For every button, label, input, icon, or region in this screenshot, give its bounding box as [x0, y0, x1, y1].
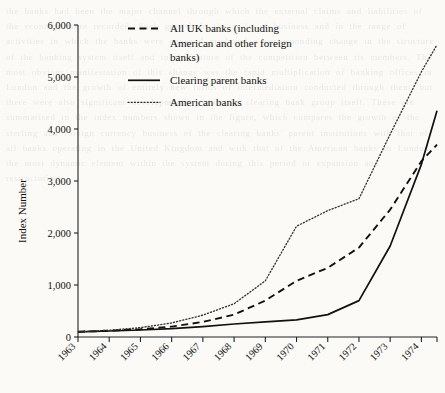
y-tick-label: 2,000 — [47, 228, 71, 239]
x-tick-label: 1966 — [149, 341, 171, 363]
x-tick-label: 1967 — [180, 341, 202, 363]
legend-label: Clearing parent banks — [170, 74, 267, 86]
x-tick-label: 1970 — [274, 341, 296, 363]
x-tick-label: 1969 — [243, 341, 265, 363]
series-line-dashed — [78, 145, 437, 332]
series-line-dotted — [78, 45, 437, 332]
x-tick-label: 1965 — [118, 341, 140, 363]
plot-area: 01,0002,0003,0004,0005,0006,000Index Num… — [16, 20, 437, 363]
chart-svg: 01,0002,0003,0004,0005,0006,000Index Num… — [0, 0, 445, 393]
y-tick-label: 1,000 — [47, 280, 71, 291]
x-tick-label: 1974 — [399, 341, 421, 363]
x-tick-label: 1971 — [305, 341, 327, 363]
y-tick-label: 4,000 — [47, 124, 71, 135]
legend-label: banks) — [170, 51, 200, 64]
x-tick-label: 1973 — [368, 341, 390, 363]
x-tick-label: 1963 — [55, 341, 77, 363]
chart-figure: 01,0002,0003,0004,0005,0006,000Index Num… — [0, 0, 445, 393]
legend-label: American and other foreign — [170, 37, 292, 49]
y-tick-label: 6,000 — [47, 20, 71, 31]
x-tick-label: 1964 — [87, 341, 109, 363]
legend-label: All UK banks (including — [170, 22, 280, 35]
y-tick-label: 3,000 — [47, 176, 71, 187]
legend-label: American banks — [170, 96, 242, 108]
y-tick-label: 5,000 — [47, 72, 71, 83]
x-tick-label: 1968 — [212, 341, 234, 363]
series-line-solid — [78, 111, 437, 332]
x-tick-label: 1972 — [336, 341, 358, 363]
y-axis-title: Index Number — [16, 179, 28, 243]
